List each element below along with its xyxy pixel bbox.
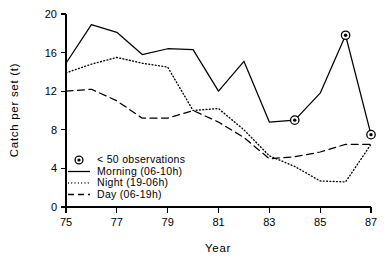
legend-marker-icon-dot — [77, 158, 80, 161]
low-observation-marker-dot — [293, 118, 296, 121]
line-chart: 048121620 75777981838587 Catch per set (… — [0, 0, 388, 261]
x-tick-label: 83 — [263, 216, 275, 228]
x-tick-label: 81 — [212, 216, 224, 228]
chart-legend: < 50 observationsMorning (06-10h)Night (… — [68, 153, 185, 200]
low-observation-marker-dot — [369, 133, 372, 136]
annotation-markers — [291, 31, 376, 139]
legend-label: Morning (06-10h) — [97, 165, 182, 177]
chart-container: 048121620 75777981838587 Catch per set (… — [0, 0, 388, 261]
y-tick-label: 4 — [51, 162, 57, 174]
series-line-morning — [66, 25, 371, 135]
y-tick-label: 16 — [45, 47, 57, 59]
x-axis-title: Year — [205, 242, 231, 254]
x-tick-label: 85 — [314, 216, 326, 228]
x-tick-label: 77 — [111, 216, 123, 228]
y-tick-label: 0 — [51, 201, 57, 213]
y-axis-title: Catch per set (t) — [8, 63, 20, 157]
y-axis-ticks: 048121620 — [45, 8, 66, 213]
series-line-day — [66, 89, 371, 158]
legend-label: Day (06-19h) — [97, 188, 162, 200]
x-tick-label: 75 — [60, 216, 72, 228]
y-tick-label: 8 — [51, 124, 57, 136]
legend-label: Night (19-06h) — [97, 176, 168, 188]
x-tick-label: 79 — [162, 216, 174, 228]
legend-label: < 50 observations — [97, 153, 185, 165]
y-tick-label: 20 — [45, 8, 57, 20]
x-axis-ticks: 75777981838587 — [60, 207, 377, 228]
x-tick-label: 87 — [365, 216, 377, 228]
y-tick-label: 12 — [45, 85, 57, 97]
low-observation-marker-dot — [344, 34, 347, 37]
